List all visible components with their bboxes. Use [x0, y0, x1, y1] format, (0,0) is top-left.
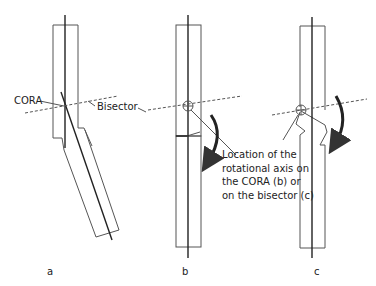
panel-c-drawing [272, 17, 367, 258]
cora-label: CORA [14, 95, 42, 107]
description-line-3: the CORA (b) or [222, 175, 314, 189]
panel-b-drawing [148, 15, 242, 258]
panel-a-drawing [25, 15, 146, 240]
description-line-4: on the bisector (c) [222, 189, 314, 203]
description-line-2: rotational axis on [222, 162, 314, 176]
description-text: Location of the rotational axis on the C… [222, 148, 314, 202]
description-line-1: Location of the [222, 148, 314, 162]
diagram-canvas [0, 0, 376, 286]
panel-b-label: b [182, 266, 188, 277]
panel-a-label: a [47, 266, 53, 277]
panel-c-label: c [314, 266, 320, 277]
bisector-label: Bisector [97, 101, 138, 113]
